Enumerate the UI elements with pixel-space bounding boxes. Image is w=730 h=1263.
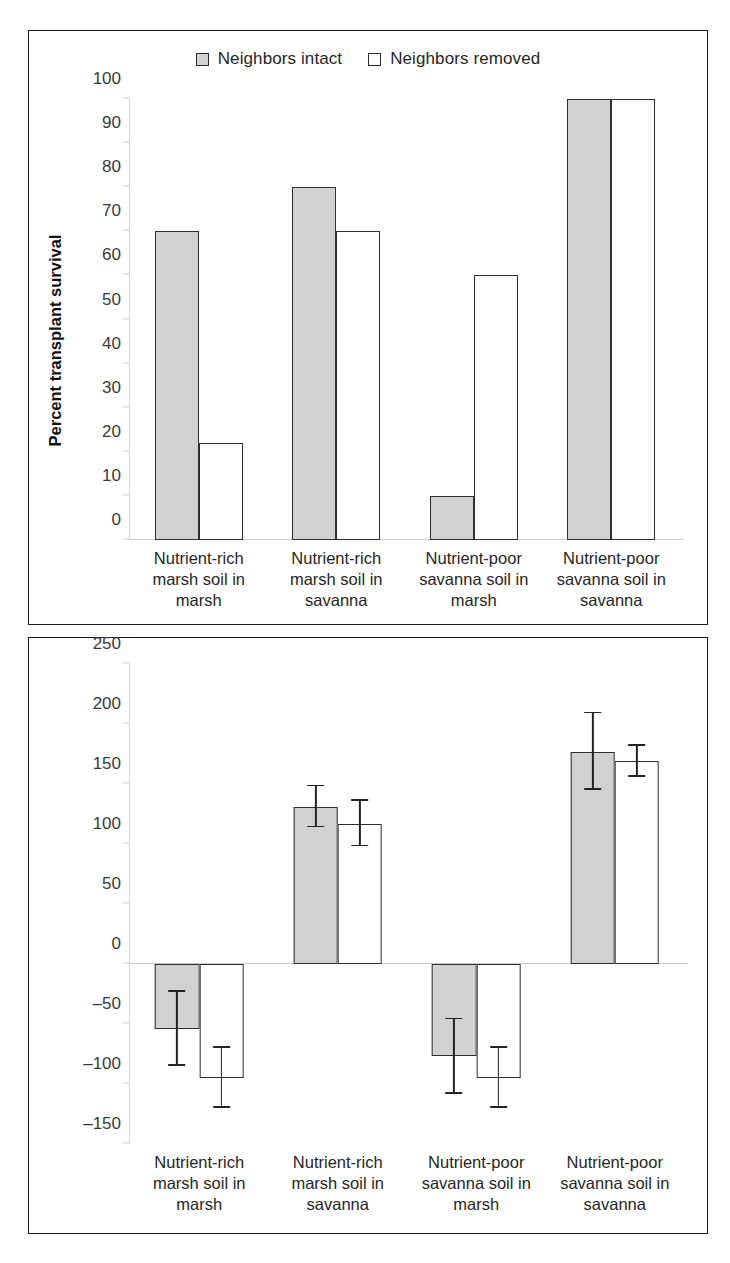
y-tick-label-top: 80 (102, 157, 121, 177)
y-tick-label-bottom: 200 (93, 694, 121, 714)
error-bar-removed (498, 1048, 500, 1108)
x-axis-labels-top: Nutrient-richmarsh soil inmarshNutrient-… (130, 548, 680, 611)
bar-pair (292, 99, 380, 540)
y-tick-label-top: 60 (102, 245, 121, 265)
y-tick-mark-bottom (123, 1143, 130, 1144)
y-tick-mark-top (123, 406, 130, 407)
bar-removed[interactable] (199, 443, 243, 540)
bar-group (268, 99, 406, 540)
bar-removed[interactable] (474, 275, 518, 540)
bar-group (130, 664, 269, 1144)
y-tick-label-bottom: 50 (102, 874, 121, 894)
y-tick-mark-top (123, 318, 130, 319)
y-tick-label-bottom: –100 (83, 1054, 121, 1074)
error-bar-cap-lower (213, 1106, 230, 1108)
y-tick-label-top: 50 (102, 290, 121, 310)
bar-groups-bottom (130, 664, 684, 1144)
y-tick-label-top: 90 (102, 113, 121, 133)
plot-area-top: 0102030405060708090100 (130, 99, 680, 540)
error-bar-intact (453, 1019, 455, 1093)
y-tick-mark-top (123, 274, 130, 275)
y-tick-mark-bottom (123, 723, 130, 724)
x-axis-category-label: Nutrient-poorsavanna soil inmarsh (405, 548, 543, 611)
y-tick-mark-bottom (123, 1023, 130, 1024)
bar-group (130, 99, 268, 540)
error-bar-cap-upper (584, 712, 601, 714)
bar-intact[interactable] (155, 231, 199, 540)
x-axis-category-label: Nutrient-poorsavanna soil insavanna (543, 548, 681, 611)
x-axis-labels-bottom: Nutrient-richmarsh soil inmarshNutrient-… (130, 1152, 684, 1215)
legend: Neighbors intact Neighbors removed (29, 49, 707, 69)
legend-label-removed: Neighbors removed (390, 49, 540, 69)
y-tick-mark-top (123, 230, 130, 231)
error-bar-removed (359, 801, 361, 847)
bar-pair (155, 664, 244, 1144)
bar-group (269, 664, 408, 1144)
error-bar-intact (592, 713, 594, 790)
y-tick-label-top: 40 (102, 334, 121, 354)
y-tick-label-bottom: 250 (93, 634, 121, 654)
error-bar-cap-upper (351, 799, 368, 801)
bar-group (407, 664, 546, 1144)
bar-group (546, 664, 685, 1144)
legend-item-removed: Neighbors removed (368, 49, 540, 69)
error-bar-cap-lower (628, 775, 645, 777)
x-axis-category-label: Nutrient-richmarsh soil insavanna (268, 548, 406, 611)
error-bar-cap-lower (446, 1092, 463, 1094)
y-tick-mark-bottom (123, 783, 130, 784)
bar-pair (570, 664, 659, 1144)
x-axis-category-label: Nutrient-richmarsh soil inmarsh (130, 548, 268, 611)
bar-intact[interactable] (567, 99, 611, 540)
bar-removed[interactable] (611, 99, 655, 540)
error-bar-cap-upper (490, 1046, 507, 1048)
bar-group (405, 99, 543, 540)
y-tick-label-top: 0 (112, 510, 121, 530)
bar-intact[interactable] (430, 496, 474, 540)
y-tick-mark-top (123, 450, 130, 451)
x-axis-category-label: Nutrient-poorsavanna soil inmarsh (407, 1152, 546, 1215)
bar-removed[interactable] (336, 231, 380, 540)
bar-pair (567, 99, 655, 540)
error-bar-intact (176, 992, 178, 1066)
error-bar-cap-upper (307, 785, 324, 787)
bar-pair (430, 99, 518, 540)
legend-item-intact: Neighbors intact (196, 49, 342, 69)
x-axis-category-label: Nutrient-richmarsh soil inmarsh (130, 1152, 269, 1215)
bar-intact[interactable] (293, 807, 337, 964)
open-square-icon (368, 53, 381, 66)
y-tick-label-bottom: 0 (112, 934, 121, 954)
y-tick-mark-bottom (123, 1083, 130, 1084)
bar-removed[interactable] (615, 761, 659, 964)
x-axis-category-label: Nutrient-richmarsh soil insavanna (269, 1152, 408, 1215)
filled-square-icon (196, 53, 209, 66)
y-tick-mark-bottom (123, 663, 130, 664)
y-tick-mark-top (123, 362, 130, 363)
error-bar-cap-lower (351, 845, 368, 847)
y-tick-label-top: 100 (93, 69, 121, 89)
y-tick-mark-top (123, 539, 130, 540)
error-bar-cap-lower (169, 1064, 186, 1066)
y-tick-mark-top (123, 186, 130, 187)
error-bar-cap-upper (446, 1018, 463, 1020)
error-bar-removed (221, 1048, 223, 1108)
y-tick-label-bottom: 100 (93, 814, 121, 834)
y-tick-label-bottom: 150 (93, 754, 121, 774)
bar-pair (293, 664, 382, 1144)
bar-intact[interactable] (292, 187, 336, 540)
error-bar-cap-lower (307, 826, 324, 828)
bar-pair (155, 99, 243, 540)
bar-pair (432, 664, 521, 1144)
error-bar-cap-upper (169, 990, 186, 992)
bar-group (543, 99, 681, 540)
bar-groups-top (130, 99, 680, 540)
error-bar-cap-upper (213, 1046, 230, 1048)
y-tick-mark-top (123, 142, 130, 143)
y-tick-mark-top (123, 494, 130, 495)
y-tick-label-top: 70 (102, 201, 121, 221)
y-tick-mark-bottom (123, 903, 130, 904)
error-bar-cap-lower (584, 788, 601, 790)
y-tick-mark-bottom (123, 963, 130, 964)
y-tick-label-top: 30 (102, 378, 121, 398)
y-tick-label-bottom: –50 (93, 994, 121, 1014)
figure-root: Neighbors intact Neighbors removed Perce… (0, 0, 730, 1263)
